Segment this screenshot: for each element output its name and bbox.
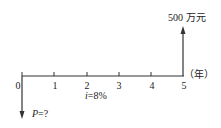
tick-label-0: 0 [16, 81, 21, 91]
present-value-label: P=? [32, 109, 48, 119]
tick-label-1: 1 [53, 81, 58, 91]
tick-label-5: 5 [182, 81, 187, 91]
tick-label-3: 3 [117, 81, 122, 91]
inflow-amount-label: 500 万元 [168, 13, 206, 23]
axis-unit-label: （年） [184, 70, 214, 80]
rate-value: =8% [88, 90, 107, 101]
pv-value: =? [38, 108, 48, 119]
tick-label-4: 4 [150, 81, 155, 91]
interest-rate-label: i=8% [85, 91, 107, 101]
